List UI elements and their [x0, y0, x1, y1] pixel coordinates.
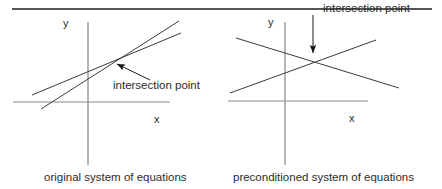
equation-line-2-left: [41, 21, 179, 109]
y-axis-label-right: y: [268, 17, 274, 28]
x-axis-label-right: x: [349, 113, 355, 124]
panel-preconditioned: [228, 15, 399, 165]
intersection-point-label-left: intersection point: [113, 80, 200, 92]
intersection-point-label-right: intersection point: [323, 3, 410, 15]
equation-line-2-right: [230, 40, 376, 93]
intersection-callout-arrow-left: [117, 64, 150, 80]
y-axis-label-left: y: [63, 18, 69, 29]
caption-original-system: original system of equations: [44, 172, 187, 184]
x-axis-label-left: x: [154, 114, 160, 125]
figure-container: y x intersection point original system o…: [0, 0, 442, 189]
caption-preconditioned-system: preconditioned system of equations: [233, 172, 414, 184]
equation-line-1-right: [236, 38, 399, 88]
panel-original: [13, 21, 181, 165]
